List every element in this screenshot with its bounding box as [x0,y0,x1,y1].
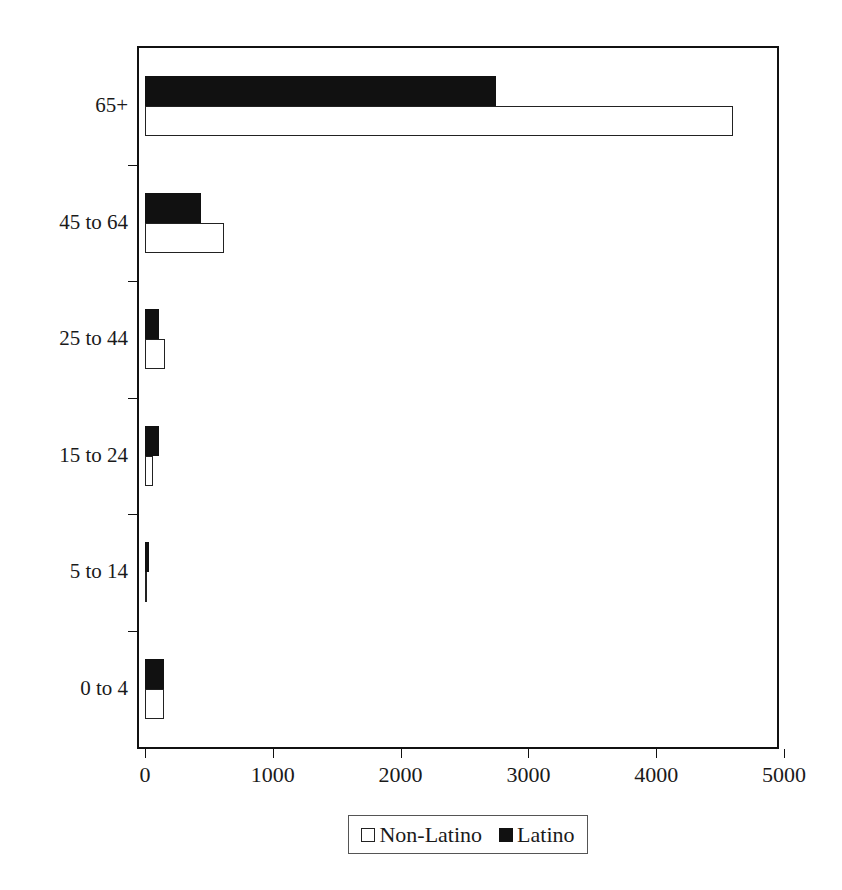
bar-non-latino [145,572,147,602]
legend-entry-latino: Latino [499,824,574,846]
legend-swatch-filled-square-icon [499,828,513,842]
value-axis-tick [273,749,274,758]
category-axis-label: 0 to 4 [8,678,128,699]
category-axis-label: 25 to 44 [8,328,128,349]
bar-latino [145,76,496,106]
value-axis-tick [656,749,657,758]
value-axis-tick-label: 1000 [251,763,295,787]
bar-non-latino [145,106,733,136]
value-axis-tick-label: 4000 [634,763,678,787]
legend-label-latino: Latino [517,824,574,846]
bar-group [145,514,784,631]
category-axis-tick [128,165,137,166]
bar-latino [145,542,149,572]
value-axis-tick-label: 2000 [379,763,423,787]
bar-latino [145,309,159,339]
category-axis-label: 15 to 24 [8,445,128,466]
value-axis-tick-label: 3000 [506,763,550,787]
bars-layer [145,48,784,747]
bar-group [145,398,784,515]
bar-non-latino [145,456,153,486]
bar-latino [145,659,164,689]
category-axis-tick [128,398,137,399]
bar-group [145,281,784,398]
category-axis-label: 45 to 64 [8,212,128,233]
bar-group [145,165,784,282]
legend: Non-Latino Latino [348,815,588,854]
category-axis-tick [128,631,137,632]
bar-latino [145,426,159,456]
legend-entry-non-latino: Non-Latino [361,824,482,846]
value-axis-tick [784,749,785,758]
bar-group [145,48,784,165]
bar-non-latino [145,339,165,369]
value-axis-tick [145,749,146,758]
category-axis-tick [128,281,137,282]
bar-chart: 0 to 45 to 1415 to 2425 to 4445 to 6465+… [0,0,842,890]
bar-non-latino [145,223,224,253]
legend-swatch-open-square-icon [361,828,375,842]
category-axis-tick [128,514,137,515]
value-axis-tick [401,749,402,758]
bar-non-latino [145,689,164,719]
value-axis-tick-label: 5000 [762,763,806,787]
category-axis: 0 to 45 to 1415 to 2425 to 4445 to 6465+ [0,48,128,747]
value-axis-tick-label: 0 [140,763,151,787]
category-axis-label: 5 to 14 [8,561,128,582]
value-axis-tick [528,749,529,758]
legend-label-non-latino: Non-Latino [379,824,482,846]
value-axis: 010002000300040005000 [0,749,842,809]
bar-latino [145,193,201,223]
category-axis-label: 65+ [8,95,128,116]
bar-group [145,631,784,748]
